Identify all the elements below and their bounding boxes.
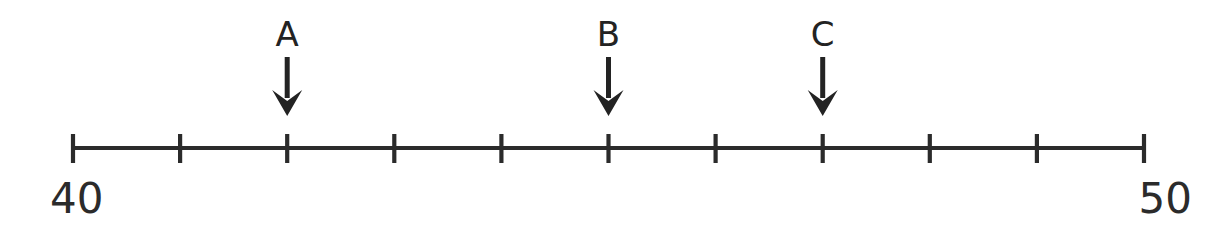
axis-endpoint-label-left: 40 bbox=[50, 174, 103, 223]
annotation-arrow-group: ABC bbox=[272, 14, 838, 116]
number-line-canvas: ABC 40 50 bbox=[0, 0, 1218, 235]
number-line-figure: ABC 40 50 bbox=[0, 0, 1218, 235]
annotation-label-b: B bbox=[597, 14, 620, 54]
axis-endpoint-label-right: 50 bbox=[1139, 174, 1192, 223]
annotation-label-a: A bbox=[276, 14, 299, 54]
annotation-label-c: C bbox=[811, 14, 835, 54]
annotation-arrow-b: B bbox=[594, 14, 624, 116]
annotation-arrow-c: C bbox=[808, 14, 838, 116]
annotation-arrow-a: A bbox=[272, 14, 302, 116]
